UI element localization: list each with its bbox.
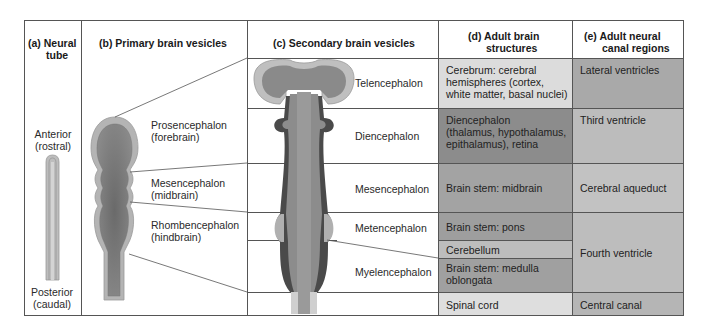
label-text: Prosencephalon: [151, 119, 227, 131]
label-text: Rhombencephalon: [151, 219, 239, 231]
label-text: Anterior: [33, 128, 73, 140]
header-neural-tube: (a) Neural tube: [28, 37, 80, 61]
label-text: (hindbrain): [151, 231, 239, 243]
mesencephalon-secondary-label: Mesencephalon: [355, 183, 429, 195]
rhombencephalon-label: Rhombencephalon (hindbrain): [151, 219, 239, 243]
label-text: (midbrain): [151, 189, 225, 201]
telencephalon-label: Telencephalon: [355, 77, 423, 89]
header-letter: (e): [584, 30, 597, 42]
diencephalon-label: Diencephalon: [355, 130, 419, 142]
anterior-label: Anterior (rostral): [33, 128, 73, 152]
prosencephalon-label: Prosencephalon (forebrain): [151, 119, 227, 143]
primary-vesicles-icon: [91, 117, 138, 300]
header-letter: (a): [28, 37, 41, 49]
header-secondary-vesicles: (c) Secondary brain vesicles: [273, 37, 415, 49]
header-letter: (c): [273, 37, 286, 49]
header-text: Adult neural: [599, 30, 660, 42]
header-text: Primary brain vesicles: [115, 37, 227, 49]
secondary-vesicles-icon: [254, 60, 354, 314]
metencephalon-label: Metencephalon: [355, 222, 427, 234]
header-text: Secondary brain vesicles: [289, 37, 415, 49]
label-text: Mesencephalon: [151, 177, 225, 189]
header-letter: (d): [468, 30, 481, 42]
mesencephalon-primary-label: Mesencephalon (midbrain): [151, 177, 225, 201]
label-text: Posterior: [31, 286, 73, 298]
label-text: (caudal): [31, 298, 73, 310]
label-text: (rostral): [33, 140, 73, 152]
header-text: Adult brain: [484, 30, 539, 42]
header-text: tube: [28, 49, 68, 61]
header-text: Neural: [44, 37, 77, 49]
header-text: canal regions: [584, 42, 670, 54]
neural-tube-icon: [46, 155, 59, 280]
header-canal-regions: (e) Adult neural canal regions: [584, 30, 670, 54]
label-text: (forebrain): [151, 131, 227, 143]
header-text: structures: [468, 42, 537, 54]
posterior-label: Posterior (caudal): [31, 286, 73, 310]
myelencephalon-label: Myelencephalon: [355, 266, 431, 278]
header-primary-vesicles: (b) Primary brain vesicles: [99, 37, 227, 49]
header-adult-structures: (d) Adult brain structures: [468, 30, 539, 54]
header-letter: (b): [99, 37, 112, 49]
